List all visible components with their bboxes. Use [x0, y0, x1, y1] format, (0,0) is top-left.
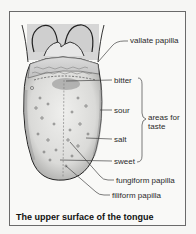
label-fungiform-papilla: fungiform papilla — [116, 176, 175, 185]
tongue-body — [24, 57, 102, 180]
label-salt: salt — [114, 135, 126, 144]
label-sweet: sweet — [114, 157, 135, 166]
label-filiform-papilla: filiform papilla — [112, 191, 161, 200]
label-taste: taste — [148, 122, 165, 131]
label-sour: sour — [114, 106, 130, 115]
label-bitter: bitter — [114, 76, 132, 85]
label-areas-for: areas for — [148, 113, 180, 122]
figure-caption: The upper surface of the tongue — [16, 212, 154, 222]
label-vallate-papilla: vallate papilla — [130, 36, 178, 45]
